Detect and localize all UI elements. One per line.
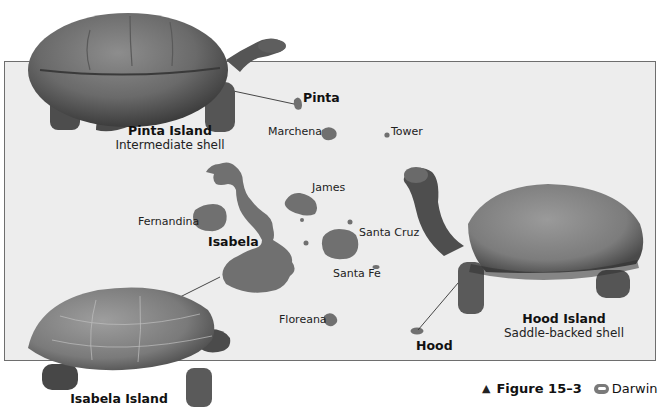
island-islet-2 xyxy=(348,220,353,225)
galapagos-map xyxy=(0,0,660,407)
triangle-marker-icon: ▲ xyxy=(482,382,490,395)
leader-line-isabela xyxy=(178,277,220,298)
island-tower xyxy=(384,132,389,137)
island-label-santa-fe: Santa Fe xyxy=(333,267,381,280)
island-pinta xyxy=(294,98,302,110)
island-label-hood: Hood xyxy=(416,338,453,353)
tortoise-pinta-image xyxy=(28,13,286,132)
web-link-icon xyxy=(594,384,609,394)
figure-reference: ▲ Figure 15–3 Darwin xyxy=(482,381,658,396)
island-label-fernandina: Fernandina xyxy=(138,215,199,228)
tortoise-isabela-image xyxy=(28,288,230,407)
caption-isabela-title: Isabela Island xyxy=(44,391,194,406)
island-label-tower: Tower xyxy=(391,125,423,138)
island-santa-cruz xyxy=(322,229,358,259)
figure-number: Figure 15–3 xyxy=(496,381,581,396)
island-hood xyxy=(411,328,424,335)
island-label-james: James xyxy=(312,181,345,194)
island-label-marchena: Marchena xyxy=(268,125,322,138)
island-label-isabela: Isabela xyxy=(208,234,259,249)
leader-line-hood xyxy=(418,276,464,330)
web-link-label: Darwin xyxy=(612,381,658,396)
island-label-santa-cruz: Santa Cruz xyxy=(359,226,419,239)
island-islet-3 xyxy=(304,241,309,246)
web-link[interactable]: Darwin xyxy=(588,381,658,396)
island-marchena xyxy=(321,127,336,140)
island-islet-1 xyxy=(300,218,304,222)
island-label-floreana: Floreana xyxy=(279,313,327,326)
caption-hood-title: Hood Island xyxy=(494,311,634,326)
island-james xyxy=(285,193,317,216)
island-label-pinta: Pinta xyxy=(303,90,340,105)
tortoise-hood-image xyxy=(404,167,643,314)
caption-hood-subtitle: Saddle-backed shell xyxy=(474,326,654,340)
caption-pinta-subtitle: Intermediate shell xyxy=(80,138,260,152)
caption-pinta-title: Pinta Island xyxy=(100,123,240,138)
